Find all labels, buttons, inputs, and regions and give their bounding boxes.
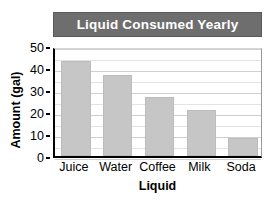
bar-chart-figure: Liquid Consumed Yearly 01020304050 Amoun… (0, 0, 275, 205)
bars-layer (55, 49, 261, 156)
x-tick-label-water: Water (99, 160, 132, 174)
bar-soda (228, 138, 257, 156)
x-tick-label-coffee: Coffee (139, 160, 176, 174)
chart-title-band: Liquid Consumed Yearly (53, 12, 262, 37)
y-tick-label: 50 (30, 41, 44, 55)
x-tick-label-soda: Soda (226, 160, 255, 174)
bar-juice (61, 61, 90, 156)
bar-milk (187, 110, 216, 156)
y-tick-mark (46, 91, 50, 93)
chart-title: Liquid Consumed Yearly (77, 17, 239, 32)
y-tick-label: 10 (30, 129, 44, 143)
y-tick-mark (46, 47, 50, 49)
y-tick-mark (46, 69, 50, 71)
x-tick-label-milk: Milk (188, 160, 210, 174)
y-tick-mark (46, 135, 50, 137)
y-tick-mark (46, 113, 50, 115)
y-tick-mark (46, 157, 50, 159)
plot-area (53, 48, 262, 158)
y-tick-label: 0 (37, 151, 44, 165)
x-axis-title: Liquid (53, 179, 262, 193)
x-tick-label-juice: Juice (59, 160, 88, 174)
x-axis-tick-labels: JuiceWaterCoffeeMilkSoda (53, 160, 262, 178)
bar-coffee (145, 97, 174, 156)
y-axis-tick-labels: 01020304050 (0, 48, 50, 158)
bar-water (103, 75, 132, 156)
y-tick-label: 30 (30, 85, 44, 99)
y-tick-label: 20 (30, 107, 44, 121)
y-tick-label: 40 (30, 63, 44, 77)
y-axis-title: Amount (gal) (9, 56, 23, 164)
